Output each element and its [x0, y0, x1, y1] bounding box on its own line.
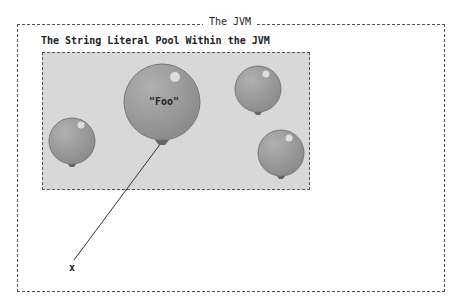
reference-line	[74, 143, 161, 260]
balloons-layer	[0, 0, 460, 307]
reference-variable-x: x	[69, 262, 75, 273]
balloon	[49, 118, 95, 167]
balloon	[258, 130, 304, 179]
foo-label: "Foo"	[149, 96, 179, 107]
balloon	[235, 66, 281, 115]
